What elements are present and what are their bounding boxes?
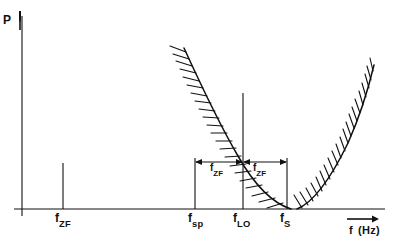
dimension-right-arrow-end-icon: [280, 159, 287, 165]
tick-label-f-s: fS: [280, 214, 290, 226]
curve-left-hatching: [170, 46, 283, 208]
x-axis-label-unit: (Hz): [358, 224, 380, 236]
curve-right-skirt: [297, 65, 374, 209]
dimension-label-right-zf-sub: ZF: [256, 169, 266, 178]
tick-label-f-zf: fZF: [55, 214, 71, 226]
x-axis-label-base: f: [349, 224, 353, 236]
y-axis-label: P: [3, 16, 11, 28]
dimension-left-arrow-start-icon: [195, 159, 202, 165]
curve-left-skirt: [184, 48, 291, 209]
tick-label-f-lo-sub: LO: [237, 219, 250, 229]
tick-label-f-sp: fsp: [188, 214, 203, 226]
tick-label-f-sp-sub: sp: [192, 219, 203, 229]
figure-canvas: P fZF fsp fLO fS fZF fZF f(Hz): [0, 0, 395, 248]
tick-label-f-s-sub: S: [284, 219, 290, 229]
spectrum-diagram-svg: [0, 0, 395, 248]
curve-right-hatching: [294, 58, 373, 208]
x-axis-arrow-icon: [372, 216, 379, 223]
dimension-label-left-zf: fZF: [210, 165, 223, 175]
dimension-label-left-zf-sub: ZF: [213, 169, 223, 178]
tick-label-f-lo: fLO: [233, 214, 250, 226]
dimension-label-right-zf: fZF: [253, 165, 266, 175]
x-axis-label: f(Hz): [349, 227, 380, 238]
y-axis-label-text: P: [3, 13, 11, 27]
tick-label-f-zf-sub: ZF: [59, 219, 71, 229]
